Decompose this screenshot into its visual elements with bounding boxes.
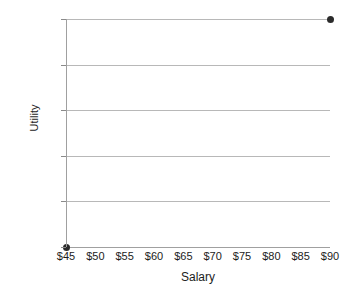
gridline-100 [66,19,330,20]
y-tick-mark-60 [61,110,66,111]
y-axis-title: Utility [28,78,40,158]
gridline-20 [66,201,330,202]
utility-salary-scatter-chart: 020406080100 $45$50$55$60$65$70$75$80$85… [0,0,358,302]
gridline-80 [66,65,330,66]
y-tick-mark-80 [61,65,66,66]
y-tick-mark-100 [61,19,66,20]
y-tick-mark-40 [61,156,66,157]
x-axis-title: Salary [66,270,330,284]
y-tick-mark-0 [61,247,66,248]
data-point-1 [327,16,334,23]
y-axis-spine [66,19,67,247]
gridline-60 [66,110,330,111]
x-tick-label-90: $90 [310,251,350,262]
gridline-40 [66,156,330,157]
gridline-0 [66,247,330,248]
plot-area [66,19,330,247]
y-tick-mark-20 [61,201,66,202]
